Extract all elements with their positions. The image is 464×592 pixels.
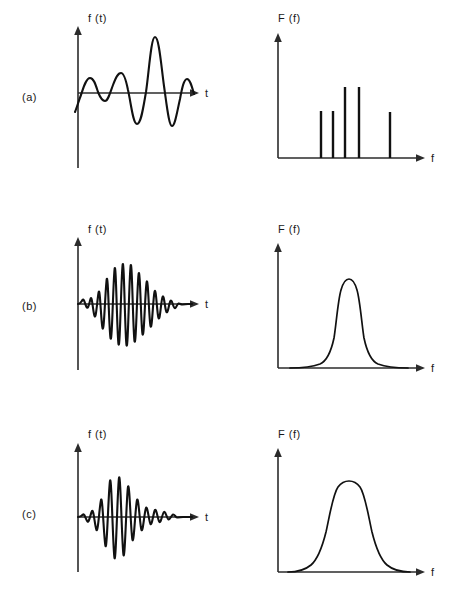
x-axis-label-b-freq: f bbox=[431, 362, 435, 374]
y-axis-label-c-freq: F (f) bbox=[278, 428, 301, 440]
y-axis-label-a-time: f (t) bbox=[88, 12, 107, 24]
waveform-b-time bbox=[78, 264, 192, 346]
row-c: (c) f (t) t F (f) f bbox=[22, 428, 435, 578]
row-label-b: (b) bbox=[22, 300, 37, 312]
waveform-c-time bbox=[78, 477, 192, 558]
x-axis-label-b-time: t bbox=[205, 298, 209, 310]
panel-a-freq: F (f) f bbox=[274, 12, 435, 164]
y-axis-arrow-c-freq bbox=[274, 448, 282, 457]
y-axis-arrow-c-time bbox=[74, 443, 82, 452]
spectrum-peak-c bbox=[288, 481, 410, 572]
y-axis-arrow-a-time bbox=[74, 26, 82, 35]
y-axis-arrow-b-time bbox=[74, 237, 82, 246]
panel-b-freq: F (f) f bbox=[274, 223, 435, 374]
x-axis-arrow-c-freq bbox=[416, 568, 425, 576]
x-axis-arrow-b-freq bbox=[416, 364, 425, 372]
x-axis-label-c-time: t bbox=[205, 511, 209, 523]
y-axis-label-b-time: f (t) bbox=[88, 223, 107, 235]
x-axis-arrow-a-freq bbox=[416, 154, 425, 162]
row-b: (b) f (t) t F (f) f bbox=[22, 223, 435, 374]
waveform-a-time bbox=[75, 37, 194, 126]
panel-a-time: f (t) t bbox=[74, 12, 208, 168]
panel-b-time: f (t) t bbox=[74, 223, 208, 370]
y-axis-label-b-freq: F (f) bbox=[278, 223, 301, 235]
y-axis-arrow-b-freq bbox=[274, 243, 282, 252]
row-label-c: (c) bbox=[22, 508, 36, 520]
row-label-a: (a) bbox=[22, 91, 37, 103]
y-axis-label-c-time: f (t) bbox=[88, 428, 107, 440]
fourier-transform-pairs-figure: (a) f (t) t F (f) f (b) bbox=[0, 0, 464, 592]
panel-c-time: f (t) t bbox=[74, 428, 208, 572]
x-axis-label-c-freq: f bbox=[431, 566, 435, 578]
spectrum-peak-b bbox=[290, 279, 408, 368]
x-axis-label-a-freq: f bbox=[431, 152, 435, 164]
y-axis-arrow-a-freq bbox=[274, 33, 282, 42]
x-axis-label-a-time: t bbox=[205, 87, 209, 99]
panel-c-freq: F (f) f bbox=[274, 428, 435, 578]
row-a: (a) f (t) t F (f) f bbox=[22, 12, 435, 168]
y-axis-label-a-freq: F (f) bbox=[278, 12, 301, 24]
